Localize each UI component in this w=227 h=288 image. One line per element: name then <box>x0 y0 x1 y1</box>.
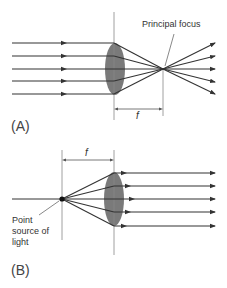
focal-length-label-b: f <box>85 148 88 158</box>
point-source-label-line2: source of <box>12 227 49 236</box>
diverging-rays-b <box>62 173 114 226</box>
panel-a-label: (A) <box>11 119 30 133</box>
point-source-label-line1: Point <box>12 216 33 225</box>
refracted-rays-a <box>114 43 215 94</box>
panel-b-label: (B) <box>11 263 30 277</box>
focal-length-label-a: f <box>136 111 139 121</box>
diagram-canvas <box>0 0 227 288</box>
point-source-label-line3: light <box>12 238 29 247</box>
point-source-dot <box>59 196 64 201</box>
panel-b <box>12 150 215 255</box>
principal-focus-label: Principal focus <box>142 20 201 29</box>
principal-focus-leader <box>165 34 174 66</box>
parallel-rays-b <box>114 173 215 226</box>
lens-diagram: Principal focus f (A) f Point source of … <box>0 0 227 288</box>
incoming-rays-a <box>12 43 114 94</box>
point-source-leader <box>39 201 59 215</box>
